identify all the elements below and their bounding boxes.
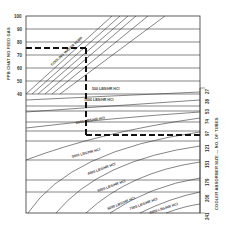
hcl-curves [26,92,200,213]
svg-text:151: 151 [205,160,210,168]
svg-text:97: 97 [205,130,210,136]
svg-text:74: 74 [205,118,210,124]
left-axis-ticks: 100 90 80 70 60 50 40 [14,14,23,97]
svg-text:179: 179 [205,178,210,186]
svg-text:500 LBS/HR HCl: 500 LBS/HR HCl [92,87,120,91]
svg-text:90: 90 [17,27,23,32]
svg-text:100: 100 [14,14,22,19]
svg-text:40: 40 [17,92,23,97]
right-axis-label: COOLER ABSORBER SIZE — NO. OF TUBES [214,117,219,210]
svg-text:4000 LBS/HR HCl: 4000 LBS/HR HCl [87,162,116,176]
svg-text:2000 LBS/HR HCl: 2000 LBS/HR HCl [75,116,105,125]
left-axis-label: PPB CHAT NO FEED GAS [6,27,11,80]
right-axis-ticks: 27 38 53 74 97 121 151 179 206 241 [205,88,210,220]
nomograph-chart: COOLING WATER TEMP. 500 LBS/HR HCl 1000 … [0,0,226,251]
svg-text:5000 LBS/HR HCl: 5000 LBS/HR HCl [97,179,126,193]
svg-text:50: 50 [17,79,23,84]
svg-text:241: 241 [205,212,210,220]
svg-text:1000 LBS/HR HCl: 1000 LBS/HR HCl [84,98,114,102]
svg-text:3000 LBS/HR HCl: 3000 LBS/HR HCl [71,147,101,159]
svg-text:121: 121 [205,144,210,152]
svg-text:60: 60 [17,66,23,71]
svg-text:27: 27 [205,88,210,94]
svg-text:80: 80 [17,40,23,45]
svg-text:206: 206 [205,194,210,202]
cooling-water-label: COOLING WATER TEMP. [50,36,84,67]
svg-text:53: 53 [205,108,210,114]
svg-text:70: 70 [17,53,23,58]
svg-text:38: 38 [205,98,210,104]
